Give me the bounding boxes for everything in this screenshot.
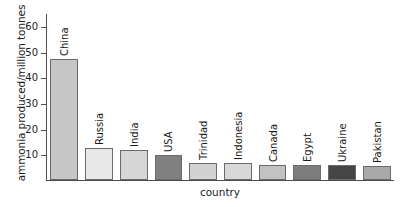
x-axis-title: country: [46, 185, 394, 199]
bar: Russia: [85, 148, 113, 180]
y-tick-label: 40: [25, 71, 38, 84]
y-tick: 20: [41, 130, 46, 131]
y-tick: 40: [41, 78, 46, 79]
bar: Pakistan: [363, 166, 391, 180]
bar-series: ChinaRussiaIndiaUSATrinidadIndonesiaCana…: [47, 14, 394, 180]
y-tick-label: 30: [25, 97, 38, 110]
bar: Canada: [259, 165, 287, 180]
y-tick-label: 20: [25, 123, 38, 136]
bar-group: India: [120, 13, 148, 180]
bar-group: Canada: [259, 13, 287, 180]
bar: Egypt: [293, 165, 321, 180]
x-axis-line: [46, 180, 394, 181]
bar-category-label: Ukraine: [336, 124, 347, 163]
bar-group: Russia: [85, 13, 113, 180]
bar-group: Trinidad: [189, 13, 217, 180]
y-tick: 50: [41, 53, 46, 54]
bar-category-label: China: [59, 28, 70, 57]
bar-category-label: Russia: [94, 113, 105, 145]
bar-category-label: USA: [163, 131, 174, 152]
bar-category-label: Trinidad: [198, 121, 209, 160]
bar-group: China: [50, 13, 78, 180]
plot-area: 102030405060 ChinaRussiaIndiaUSATrinidad…: [46, 14, 394, 181]
bar-category-label: India: [128, 123, 139, 148]
bar-group: Indonesia: [224, 13, 252, 180]
bar-group: Ukraine: [328, 13, 356, 180]
bar-group: Egypt: [293, 13, 321, 180]
bar: Ukraine: [328, 165, 356, 180]
y-tick-label: 60: [25, 20, 38, 33]
y-tick: 30: [41, 104, 46, 105]
bar: Trinidad: [189, 163, 217, 180]
bar-category-label: Indonesia: [232, 112, 243, 160]
bar-group: Pakistan: [363, 13, 391, 180]
bar: India: [120, 150, 148, 180]
bar: Indonesia: [224, 163, 252, 180]
y-tick-label: 50: [25, 46, 38, 59]
bar-chart: ammonia produced/million tonnes 10203040…: [0, 0, 403, 207]
bar-group: USA: [155, 13, 183, 180]
y-tick: 60: [41, 27, 46, 28]
bar: USA: [155, 155, 183, 180]
bar: China: [50, 59, 78, 180]
y-tick-label: 10: [25, 148, 38, 161]
y-tick: 10: [41, 155, 46, 156]
bar-category-label: Canada: [267, 124, 278, 162]
bar-category-label: Egypt: [302, 133, 313, 162]
bar-category-label: Pakistan: [371, 121, 382, 163]
